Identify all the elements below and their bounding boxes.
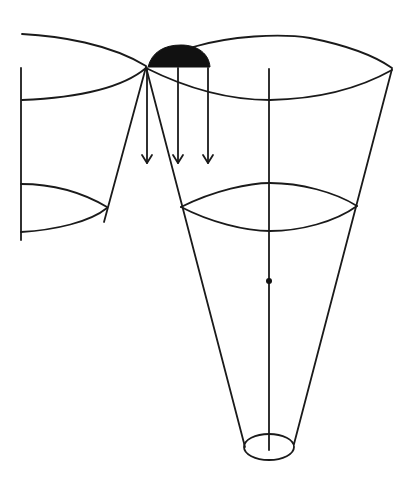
left-cone-lower-ellipse-lower [21,208,107,232]
left-cone-top-upper-curve [22,34,146,66]
right-cone [146,36,392,460]
downward-arrows [142,68,213,163]
left-cone-top-lower-curve [22,68,146,100]
cone-diagram [0,0,407,479]
axis-dot-marker [266,278,272,284]
right-cone-top-ellipse-upper [193,36,392,68]
left-cone-right-edge [104,67,146,222]
right-cone-right-edge [294,69,392,444]
arrow-2 [173,68,183,163]
dark-cap-semicircle [148,45,210,67]
left-cone [21,34,146,240]
arrow-3 [203,68,213,163]
left-cone-lower-ellipse-upper [21,184,107,207]
right-cone-left-edge [146,67,245,447]
